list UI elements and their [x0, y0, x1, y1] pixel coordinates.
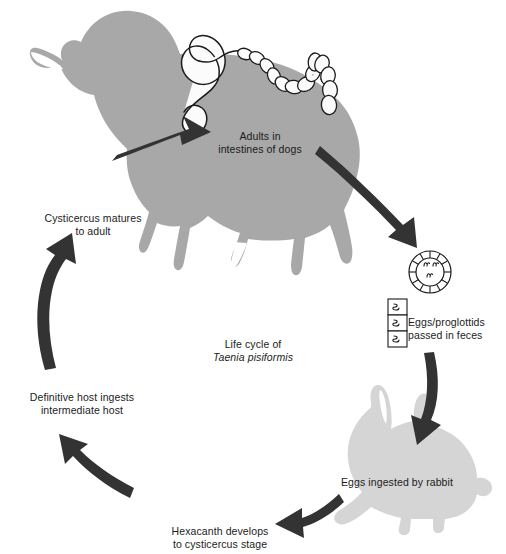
label-cysticercus-matures: Cysticercus matures to adult	[18, 199, 168, 251]
arrow-definitive-to-cysticercus-icon	[37, 233, 76, 370]
label-eggs-ingested-by-rabbit: Eggs ingested by rabbit	[323, 463, 471, 489]
figure-caption: Life cycle of Taenia pisiformis	[186, 325, 320, 377]
label-eggs-proglottids-passed: Eggs/proglottids passed in feces	[408, 303, 506, 355]
caption-species-name: Taenia pisiformis	[186, 351, 320, 364]
rabbit-silhouette-icon	[334, 385, 492, 535]
label-eggs-rabbit-line1: Eggs ingested by rabbit	[341, 476, 453, 488]
label-hexacanth-line2: to cysticercus stage	[142, 538, 298, 551]
label-adults-line2: intestines of dogs	[198, 143, 322, 156]
label-hexacanth-line1: Hexacanth develops	[172, 525, 269, 537]
label-adults-line1: Adults in	[239, 130, 280, 142]
label-cysticercus-line2: to adult	[18, 225, 168, 238]
label-eggs-feces-line1: Eggs/proglottids	[408, 316, 485, 328]
arrow-hexacanth-to-definitive-icon	[59, 434, 134, 498]
life-cycle-diagram: Adults in intestines of dogs Cysticercus…	[0, 0, 506, 554]
label-definitive-line1: Definitive host ingests	[30, 391, 134, 403]
label-cysticercus-line1: Cysticercus matures	[44, 212, 141, 224]
taenia-egg-icon	[409, 251, 451, 293]
proglottid-chain-icon	[388, 299, 407, 347]
caption-line1: Life cycle of	[225, 338, 282, 350]
label-definitive-line2: intermediate host	[6, 404, 158, 417]
label-definitive-host-ingests: Definitive host ingests intermediate hos…	[6, 378, 158, 430]
label-eggs-feces-line2: passed in feces	[408, 329, 506, 342]
label-hexacanth-develops: Hexacanth develops to cysticercus stage	[142, 512, 298, 554]
label-adults-in-intestines: Adults in intestines of dogs	[198, 117, 322, 169]
